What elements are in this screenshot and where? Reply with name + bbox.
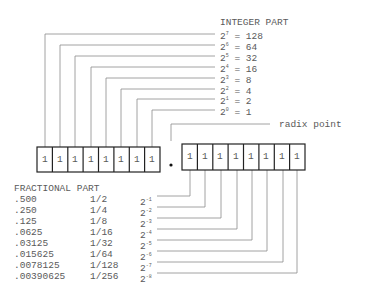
fraction-leader-lines [157,170,297,273]
integer-leader-lines [45,34,215,147]
radix-leader-line [171,124,270,141]
bit-cell: 1 [233,152,239,162]
fraction-decimal: .0078125 [14,261,60,271]
fraction-ratio: 1/128 [90,261,119,271]
radix-point-dot [169,163,172,166]
fraction-decimal: .0625 [14,228,43,238]
diagram-lines [0,0,368,296]
bit-cell: 1 [149,155,155,165]
fraction-ratio: 1/256 [90,272,119,282]
fraction-ratio: 1/64 [90,250,113,260]
bit-cell: 1 [72,155,78,165]
fraction-decimal: .125 [14,217,37,227]
fraction-decimal: .015625 [14,250,54,260]
bit-cell: 1 [118,155,124,165]
bit-cell: 1 [279,152,285,162]
bit-cell: 1 [294,152,300,162]
bit-cell: 1 [263,152,269,162]
fraction-ratio: 1/4 [90,206,107,216]
bit-cell: 1 [57,155,63,165]
bit-cell: 1 [217,152,223,162]
bit-cell: 1 [134,155,140,165]
bit-cell: 1 [103,155,109,165]
fraction-power: 2-8 [140,272,152,285]
bit-cell: 1 [88,155,94,165]
bit-cell: 1 [187,152,193,162]
fraction-decimal: .00390625 [14,272,65,282]
fraction-ratio: 1/32 [90,239,113,249]
fraction-decimal: .500 [14,195,37,205]
bit-cell: 1 [202,152,208,162]
integer-row: 20 = 1 [220,105,252,118]
fraction-ratio: 1/2 [90,195,107,205]
bit-cell: 1 [248,152,254,162]
radix-point-label: radix point [279,120,342,130]
fraction-decimal: .03125 [14,239,48,249]
bit-cell: 1 [42,155,48,165]
integer-part-title: INTEGER PART [220,18,288,28]
fraction-register [182,144,305,170]
fraction-decimal: .250 [14,206,37,216]
integer-register [37,147,160,172]
fraction-ratio: 1/16 [90,228,113,238]
fractional-part-title: FRACTIONAL PART [14,184,100,194]
fraction-ratio: 1/8 [90,217,107,227]
